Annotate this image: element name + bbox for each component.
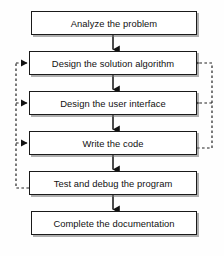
process-box-test-and-debug-the-program[interactable]: Test and debug the program [29,171,197,195]
process-box-design-the-user-interface[interactable]: Design the user interface [29,91,197,115]
process-box-design-the-solution-algorithm[interactable]: Design the solution algorithm [29,51,197,75]
process-label-test-and-debug-the-program: Test and debug the program [54,178,173,189]
flowchart-node-layer: Analyze the problem Design the solution … [0,0,224,256]
process-box-complete-the-documentation[interactable]: Complete the documentation [31,211,197,235]
process-box-analyze-the-problem[interactable]: Analyze the problem [31,11,197,35]
process-label-write-the-code: Write the code [83,138,144,149]
flowchart-canvas: Analyze the problem Design the solution … [0,0,224,256]
process-label-design-the-solution-algorithm: Design the solution algorithm [52,58,174,69]
process-label-analyze-the-problem: Analyze the problem [71,18,157,29]
process-label-complete-the-documentation: Complete the documentation [53,218,174,229]
process-label-design-the-user-interface: Design the user interface [60,98,165,109]
process-box-write-the-code[interactable]: Write the code [29,131,197,155]
